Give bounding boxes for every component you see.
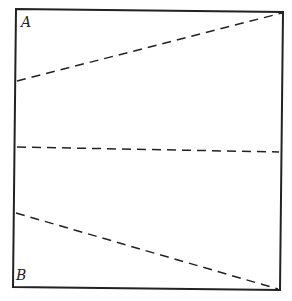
label-b: B [15,267,26,283]
dashed-line-top [17,13,282,81]
dashed-line-bottom [16,213,278,289]
dashed-line-middle [17,147,279,152]
label-a: A [19,14,31,30]
square-outline [13,9,283,290]
folding-diagram: A B [0,0,292,301]
